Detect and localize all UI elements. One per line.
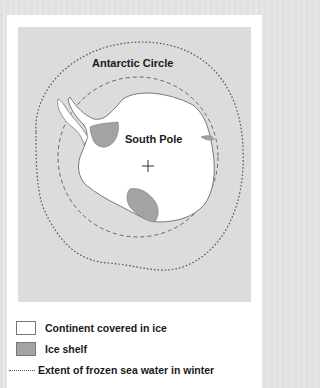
antarctic-circle-label: Antarctic Circle [92, 57, 173, 69]
legend-item-ice-shelf: Ice shelf [16, 339, 87, 359]
legend-item-sea-ice: Extent of frozen sea water in winter [9, 360, 214, 380]
legend-label: Extent of frozen sea water in winter [38, 364, 214, 376]
south-pole-label: South Pole [125, 133, 182, 145]
map-card: Antarctic Circle South Pole Continent co… [7, 15, 262, 388]
dotted-line-icon [9, 370, 35, 371]
continent-swatch-icon [16, 321, 36, 335]
legend-label: Continent covered in ice [45, 322, 167, 334]
antarctica-map: Antarctic Circle South Pole [18, 27, 251, 302]
ice-shelf-swatch-icon [16, 342, 36, 356]
legend-label: Ice shelf [45, 343, 87, 355]
legend-item-continent: Continent covered in ice [16, 318, 167, 338]
